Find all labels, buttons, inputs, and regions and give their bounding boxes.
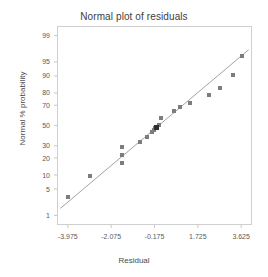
y-tick-label: 90 [28, 72, 50, 79]
data-point-marker [145, 135, 149, 139]
data-point-marker [178, 105, 182, 109]
data-point-marker [88, 174, 92, 178]
data-point-marker [120, 161, 124, 165]
y-tick-label: 80 [28, 89, 50, 96]
x-tick-label: 1.725 [178, 233, 218, 240]
x-tick-label: -3.975 [48, 233, 88, 240]
y-tick-label: 70 [28, 102, 50, 109]
normal-probability-plot: Normal plot of residuals Normal % probab… [0, 0, 268, 277]
x-tick-label: -0.175 [135, 233, 175, 240]
x-tick-label: -2.075 [91, 233, 131, 240]
data-point-marker [120, 153, 124, 157]
data-point-marker [207, 93, 211, 97]
y-axis-title: Normal % probability [18, 49, 27, 169]
y-tick-label: 50 [28, 122, 50, 129]
y-tick-label: 99 [28, 32, 50, 39]
data-point-marker [138, 140, 142, 144]
y-tick-label: 30 [28, 142, 50, 149]
data-point-marker [159, 116, 163, 120]
data-point-marker [188, 101, 192, 105]
data-point-marker [240, 54, 244, 58]
data-point-marker [120, 145, 124, 149]
data-point-marker [172, 109, 176, 113]
y-tick-label: 5 [28, 186, 50, 193]
chart-title: Normal plot of residuals [0, 11, 268, 22]
data-point-marker [66, 195, 70, 199]
data-point-marker [231, 73, 235, 77]
y-tick-label: 95 [28, 58, 50, 65]
y-tick-label: 20 [28, 155, 50, 162]
data-point-marker [218, 86, 222, 90]
x-tick-label: 3.625 [221, 233, 261, 240]
highlighted-data-point-marker [154, 125, 159, 130]
x-axis-title: Residual [0, 256, 268, 265]
y-tick-label: 10 [28, 172, 50, 179]
y-tick-label: 1 [28, 212, 50, 219]
